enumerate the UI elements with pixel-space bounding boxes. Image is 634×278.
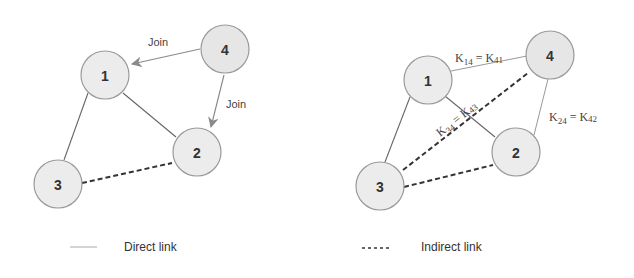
edge-1-2-direct [123,93,176,137]
node-4-label: 4 [221,42,229,58]
key-label-14: K14 = K41 [455,51,503,67]
edge-3-2-indirect [404,165,493,187]
node-2: 2 [173,128,221,176]
join-arrow-4-to-1 [132,49,200,64]
legend-indirect-label: Indirect link [421,240,483,254]
node-2-label: 2 [512,145,520,161]
node-4-label: 4 [546,48,554,64]
key-label-24: K24 = K42 [549,110,597,126]
edge-3-2-indirect [82,163,172,183]
node-3: 3 [356,162,404,210]
node-1: 1 [81,51,129,99]
join-label-4-2: Join [226,98,246,110]
legend: Direct link Indirect link [70,240,483,254]
network-join-diagram: Join Join 1 4 2 3 K14 = K41 K24 = K42 K3… [0,0,634,278]
legend-direct-label: Direct link [124,240,178,254]
node-1-label: 1 [424,73,432,89]
node-4: 4 [201,25,249,73]
node-2-label: 2 [193,145,201,161]
edge-1-3-direct [385,97,410,162]
edge-2-4-direct [534,79,548,135]
left-panel: Join Join 1 4 2 3 [34,25,249,208]
right-panel: K14 = K41 K24 = K42 K34 = K43 1 4 2 3 [356,31,597,210]
node-3-label: 3 [54,177,62,193]
edge-1-3-direct [64,93,88,160]
node-1-label: 1 [101,68,109,84]
join-label-4-1: Join [148,36,168,48]
node-4: 4 [526,31,574,79]
join-arrow-4-to-2 [211,75,224,127]
node-2: 2 [492,128,540,176]
node-3: 3 [34,160,82,208]
node-3-label: 3 [376,179,384,195]
node-1: 1 [404,56,452,104]
